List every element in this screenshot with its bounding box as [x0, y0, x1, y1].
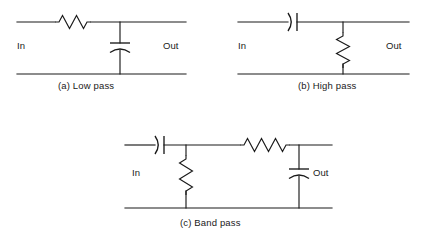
- resistor-series-horizontal-low-pass: [55, 16, 91, 29]
- figure-sheet: In Out (a) Low pass In Out (b): [0, 0, 447, 238]
- in-label-band-pass: In: [132, 167, 140, 178]
- resistor-series-horizontal-band-pass: [240, 139, 290, 152]
- out-label-high-pass: Out: [386, 40, 402, 51]
- out-label-low-pass: Out: [163, 40, 179, 51]
- out-label-band-pass: Out: [313, 167, 329, 178]
- caption-band-pass: (c) Band pass: [180, 217, 241, 228]
- caption-high-pass: (b) High pass: [298, 80, 356, 91]
- in-label-high-pass: In: [238, 40, 246, 51]
- caption-low-pass: (a) Low pass: [58, 80, 114, 91]
- resistor-shunt-vertical-high-pass: [337, 32, 350, 68]
- resistor-shunt-vertical-band-pass: [180, 155, 193, 195]
- in-label-low-pass: In: [17, 40, 25, 51]
